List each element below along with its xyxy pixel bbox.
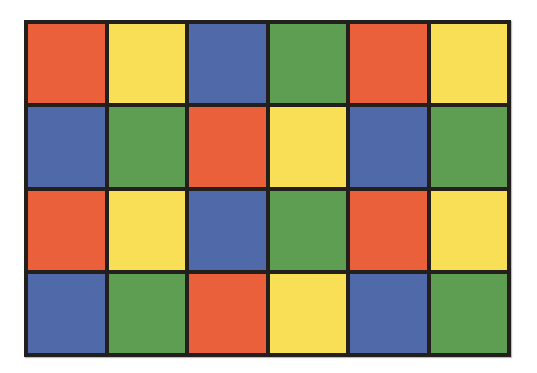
tile-blue — [28, 107, 105, 186]
tile-yellow — [431, 24, 508, 103]
tile-blue — [28, 274, 105, 353]
tile-green — [431, 274, 508, 353]
tile-red — [189, 107, 266, 186]
tile-yellow — [270, 107, 347, 186]
tile-blue — [350, 107, 427, 186]
tile-red — [350, 191, 427, 270]
tile-blue — [189, 24, 266, 103]
tile-red — [28, 191, 105, 270]
tile-blue — [350, 274, 427, 353]
tile-green — [109, 274, 186, 353]
tile-yellow — [270, 274, 347, 353]
tile-red — [28, 24, 105, 103]
tile-green — [270, 24, 347, 103]
tile-green — [109, 107, 186, 186]
tile-red — [189, 274, 266, 353]
tile-green — [270, 191, 347, 270]
tile-yellow — [109, 24, 186, 103]
tile-yellow — [109, 191, 186, 270]
color-tile-grid — [24, 20, 511, 357]
canvas — [0, 0, 537, 373]
tile-green — [431, 107, 508, 186]
tile-red — [350, 24, 427, 103]
tile-yellow — [431, 191, 508, 270]
tile-blue — [189, 191, 266, 270]
